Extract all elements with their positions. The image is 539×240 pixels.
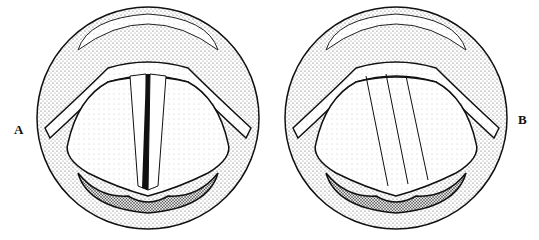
panel-label-b: B <box>518 112 527 128</box>
panel-label-a: A <box>14 122 23 138</box>
panel-b <box>285 7 507 229</box>
larynx-illustration <box>0 0 539 240</box>
panel-a <box>37 7 259 229</box>
